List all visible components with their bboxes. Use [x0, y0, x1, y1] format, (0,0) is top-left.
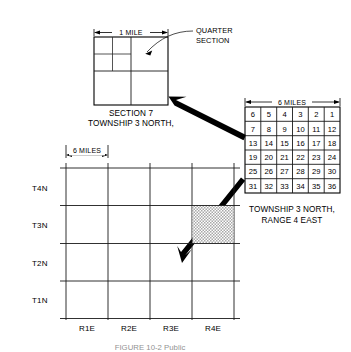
plss-diagram: 1 MILE QUARTER SECTION SECTION 7 TOWNSHI… [0, 0, 351, 352]
township-grid-group: 6 MILES 6 5 4 3 2 1 7 [245, 97, 340, 226]
section-number: 11 [312, 125, 320, 134]
section-number: 22 [296, 153, 304, 162]
section-number: 33 [280, 182, 288, 191]
survey-dimension: 6 MILES [66, 145, 108, 159]
section-number: 36 [328, 182, 336, 191]
survey-row-label-t2n: T2N [32, 259, 48, 268]
section-number: 5 [267, 110, 271, 119]
shaded-cell-t3n-r4e [193, 206, 234, 244]
section-number: 34 [296, 182, 304, 191]
survey-row-label-t1n: T1N [32, 296, 48, 305]
section-detail-group: 1 MILE QUARTER SECTION SECTION 7 TOWNSHI… [88, 26, 233, 128]
section-number: 29 [312, 167, 320, 176]
section-number: 21 [280, 153, 288, 162]
diagram-canvas: 1 MILE QUARTER SECTION SECTION 7 TOWNSHI… [0, 0, 351, 352]
section-number: 12 [328, 125, 336, 134]
section-number: 32 [265, 182, 273, 191]
section-number: 20 [265, 153, 273, 162]
section-caption-line1: SECTION 7 [109, 109, 153, 118]
quarter-section-callout: QUARTER SECTION [145, 26, 233, 56]
section-number: 25 [249, 167, 257, 176]
figure-caption: FIGURE 10-2 Public [115, 343, 186, 352]
section-number: 18 [328, 139, 336, 148]
section-number: 19 [249, 153, 257, 162]
section-number: 8 [267, 125, 271, 134]
section-dimension: 1 MILE [94, 27, 168, 38]
township-caption-line1: TOWNSHIP 3 NORTH, [249, 205, 335, 214]
survey-row-label-t4n: T4N [32, 184, 48, 193]
section-caption-line2: TOWNSHIP 3 NORTH, [88, 119, 174, 128]
section-number: 9 [282, 125, 286, 134]
section-number: 10 [296, 125, 304, 134]
section-number: 14 [265, 139, 273, 148]
survey-dimension-label: 6 MILES [73, 147, 101, 154]
survey-col-label-r4e: R4E [205, 324, 221, 333]
township-dimension: 6 MILES [245, 97, 340, 108]
section-number: 26 [265, 167, 273, 176]
arrow-township-to-section [169, 97, 247, 141]
section-square [94, 37, 168, 105]
section-number: 3 [298, 110, 302, 119]
section-number: 6 [251, 110, 255, 119]
survey-col-label-r3e: R3E [163, 324, 179, 333]
section-number: 7 [251, 125, 255, 134]
section-number: 28 [296, 167, 304, 176]
quarter-section-callout-line1: QUARTER [196, 26, 233, 35]
section-number: 2 [314, 110, 318, 119]
survey-grid-group: 6 MILES T4N T3N T2N T1N R1E R2E R3 [32, 145, 240, 334]
section-number: 30 [328, 167, 336, 176]
section-number: 13 [249, 139, 257, 148]
township-dimension-label: 6 MILES [278, 99, 306, 106]
section-number: 15 [280, 139, 288, 148]
section-number: 16 [296, 139, 304, 148]
section-dimension-label: 1 MILE [119, 29, 143, 36]
section-number: 4 [282, 110, 286, 119]
section-number: 27 [280, 167, 288, 176]
section-number: 1 [330, 110, 334, 119]
section-number: 35 [312, 182, 320, 191]
quarter-section-callout-line2: SECTION [196, 36, 230, 45]
survey-col-label-r1e: R1E [79, 324, 95, 333]
survey-row-label-t3n: T3N [32, 221, 48, 230]
section-number: 31 [249, 182, 257, 191]
figure-caption-group: FIGURE 10-2 Public [115, 343, 186, 352]
section-number: 24 [328, 153, 336, 162]
survey-col-label-r2e: R2E [121, 324, 137, 333]
section-number: 23 [312, 153, 320, 162]
township-caption-line2: RANGE 4 EAST [262, 216, 323, 225]
section-number: 17 [312, 139, 320, 148]
